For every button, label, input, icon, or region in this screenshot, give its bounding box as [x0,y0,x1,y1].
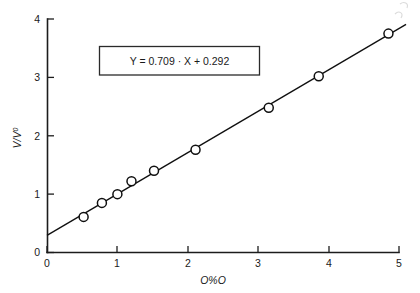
data-point [127,177,136,186]
chart-figure: 0 1 2 3 4 5 0 1 2 3 4 O%O V/V0 [0,0,420,293]
x-tick-label: 1 [114,257,120,269]
y-tick-label: 2 [34,130,40,142]
scan-artifact [395,3,407,18]
data-point [264,103,273,112]
data-point [191,145,200,154]
y-tick-label: 1 [34,188,40,200]
data-point [384,29,393,38]
data-point [314,72,323,81]
y-axis-title: V/V0 [11,127,23,148]
svg-text:V/V0: V/V0 [11,127,23,148]
data-point [97,198,106,207]
y-tick-label: 3 [34,71,40,83]
equation-annotation: Y = 0.709 · X + 0.292 [100,47,260,76]
axis-x [47,246,399,253]
x-tick-label: 2 [185,257,191,269]
data-point [79,212,88,221]
data-point [113,190,122,199]
x-tick-label: 5 [396,257,402,269]
scatter-plot: 0 1 2 3 4 5 0 1 2 3 4 O%O V/V0 [0,0,420,293]
y-tick-label: 0 [34,246,40,258]
x-tick-label: 4 [326,257,332,269]
axis-y [48,19,55,253]
x-axis-title: O%O [200,274,226,286]
y-tick-label: 4 [34,13,40,25]
y-axis-title-superscript: 0 [12,127,19,131]
data-point [150,166,159,175]
y-axis-title-base: V/V [11,131,23,149]
x-tick-labels: 0 1 2 3 4 5 [44,257,402,269]
x-tick-label: 3 [255,257,261,269]
x-tick-label: 0 [44,257,50,269]
equation-text: Y = 0.709 · X + 0.292 [130,55,230,67]
y-tick-labels: 0 1 2 3 4 [34,13,40,258]
